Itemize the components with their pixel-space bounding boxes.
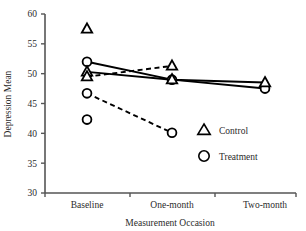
- legend-label-treatment: Treatment: [219, 152, 258, 162]
- isolated-point-1: [83, 115, 92, 124]
- y-tick-label-30: 30: [28, 188, 38, 198]
- chart-container: 30354045505560 BaselineOne-monthTwo-mont…: [0, 0, 306, 231]
- y-tick-label-40: 40: [28, 129, 38, 139]
- x-tick-label-one-month: One-month: [150, 200, 194, 210]
- y-tick-label-60: 60: [28, 9, 38, 19]
- x-tick-label-baseline: Baseline: [71, 200, 104, 210]
- data-point-3-1: [168, 128, 177, 137]
- y-tick-label-35: 35: [28, 159, 38, 169]
- legend-label-control: Control: [219, 126, 248, 136]
- y-tick-label-45: 45: [28, 99, 38, 109]
- y-axis-title: Depression Mean: [3, 70, 13, 137]
- x-axis-tick-labels: BaselineOne-monthTwo-month: [71, 200, 288, 210]
- y-tick-label-50: 50: [28, 69, 38, 79]
- x-tick-label-two-month: Two-month: [243, 200, 287, 210]
- y-tick-label-55: 55: [28, 39, 38, 49]
- data-point-3-0: [83, 89, 92, 98]
- depression-mean-line-chart: 30354045505560 BaselineOne-monthTwo-mont…: [0, 0, 306, 231]
- chart-background: [0, 0, 306, 231]
- x-axis-title: Measurement Occasion: [125, 218, 215, 228]
